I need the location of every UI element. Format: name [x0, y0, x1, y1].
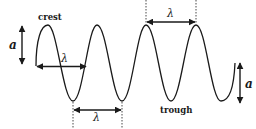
wavelength-label-midline: λ [60, 52, 68, 65]
wavelength-label-top: λ [166, 7, 174, 20]
amplitude-label-right: a [245, 77, 253, 91]
amplitude-label-left: a [9, 38, 17, 52]
wavelength-label-bottom: λ [92, 111, 100, 124]
crest-label: crest [38, 12, 62, 22]
wave-diagram: a crest λ λ λ trough a [0, 0, 256, 129]
trough-label: trough [160, 105, 192, 115]
